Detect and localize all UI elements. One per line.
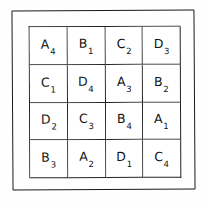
grid-cell: D1 [106, 140, 144, 178]
cell-label: A1 [154, 113, 168, 128]
cell-letter: B [79, 36, 88, 51]
cell-label: D3 [154, 38, 170, 53]
cell-letter: D [41, 112, 51, 127]
cell-label: A3 [117, 75, 131, 90]
cell-letter: B [41, 150, 50, 165]
cell-subscript: 3 [126, 83, 132, 93]
cell-subscript: 1 [164, 121, 170, 131]
cell-letter: C [116, 36, 125, 51]
cell-label: B1 [79, 38, 93, 53]
grid-cell: B4 [106, 102, 144, 140]
cell-label: D4 [78, 75, 94, 90]
cell-subscript: 1 [88, 46, 94, 56]
cell-label: C3 [79, 113, 94, 128]
cell-subscript: 4 [126, 121, 132, 131]
cell-subscript: 4 [164, 159, 170, 169]
cell-subscript: 3 [51, 160, 57, 170]
grid-cell: C2 [105, 27, 143, 65]
cell-subscript: 4 [50, 46, 56, 56]
grid-cell: A3 [105, 65, 143, 103]
grid-cell: B3 [30, 140, 68, 178]
cell-label: D1 [116, 151, 132, 166]
grid-cell: D3 [143, 27, 181, 65]
grid-cell: A2 [68, 140, 106, 178]
cell-letter: A [117, 74, 126, 89]
cell-letter: B [117, 111, 126, 126]
cell-label: D2 [41, 114, 57, 129]
cell-label: A2 [79, 151, 93, 166]
cell-letter: A [41, 36, 50, 51]
cell-letter: D [78, 73, 88, 88]
grid-cell: B1 [67, 27, 105, 65]
cell-subscript: 2 [88, 159, 94, 169]
cell-label: B4 [117, 113, 132, 128]
grid-cell: D4 [68, 65, 106, 103]
cell-letter: A [154, 111, 163, 126]
cell-label: B3 [41, 152, 56, 167]
cell-letter: B [154, 74, 163, 89]
grid-cell: C4 [143, 140, 181, 178]
cell-letter: C [41, 74, 50, 89]
cell-label: C2 [116, 38, 131, 53]
cell-label: B2 [154, 76, 169, 91]
cell-subscript: 2 [126, 46, 132, 56]
cell-label: C1 [41, 76, 56, 91]
cell-label: C4 [155, 151, 170, 166]
latin-square-figure: A4 B1 C2 D3 C1 D4 A3 B2 D2 C3 B4 [0, 0, 207, 205]
cell-subscript: 1 [50, 84, 56, 94]
grid-cell: B2 [143, 64, 181, 102]
cell-subscript: 2 [164, 84, 170, 94]
cell-letter: D [154, 36, 164, 51]
grid-cell: A1 [143, 102, 181, 140]
grid-cell: D2 [30, 103, 68, 141]
cell-label: A4 [41, 38, 56, 53]
latin-square-grid: A4 B1 C2 D3 C1 D4 A3 B2 D2 C3 B4 [29, 26, 182, 179]
grid-cell: A4 [30, 27, 68, 65]
cell-subscript: 2 [51, 122, 57, 132]
cell-subscript: 4 [89, 84, 95, 94]
grid-cell: C1 [30, 65, 68, 103]
grid-cell: C3 [68, 102, 106, 140]
cell-subscript: 3 [88, 121, 94, 131]
cell-letter: D [116, 149, 126, 164]
cell-subscript: 1 [127, 159, 133, 169]
cell-letter: A [79, 149, 88, 164]
cell-letter: C [79, 111, 88, 126]
cell-subscript: 3 [164, 46, 170, 56]
